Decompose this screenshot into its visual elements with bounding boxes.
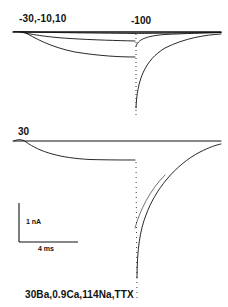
scale-bar-time-label: 4 ms bbox=[38, 245, 54, 252]
figure-caption: 30Ba,0.9Ca,114Na,TTX bbox=[25, 290, 134, 300]
top-panel-traces bbox=[13, 32, 221, 109]
tail-minus10 bbox=[136, 33, 221, 47]
tail-plus10 bbox=[136, 34, 221, 108]
bottom-panel-step-label: 30 bbox=[18, 127, 29, 137]
bottom-tail-dots bbox=[136, 162, 137, 300]
top-panel-step-label: -30,-10,10 bbox=[19, 14, 67, 24]
tail-plus30 bbox=[137, 144, 221, 278]
top-panel-tail-label: -100 bbox=[131, 16, 151, 26]
bottom-panel-traces bbox=[13, 140, 221, 278]
current-traces-figure bbox=[0, 0, 228, 307]
trace-plus30 bbox=[14, 140, 135, 160]
fit-plus30 bbox=[135, 175, 165, 228]
scale-bar-current-label: 1 nA bbox=[26, 218, 41, 225]
